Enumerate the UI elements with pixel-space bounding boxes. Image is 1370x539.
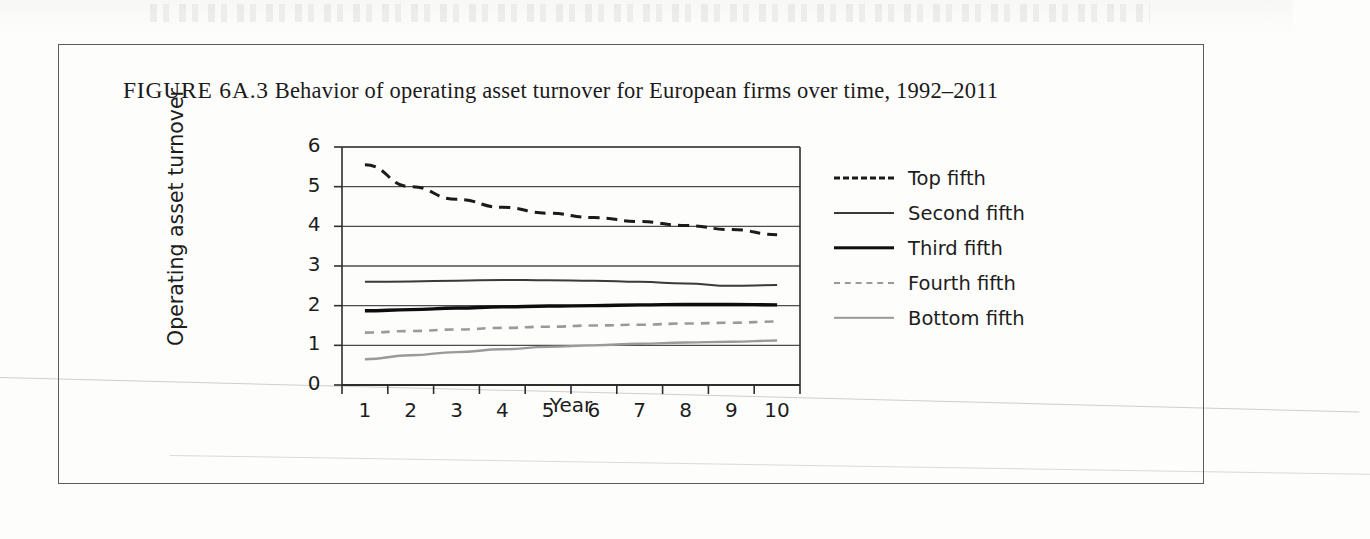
data-series-layer [365, 165, 777, 359]
series-line-top-fifth [365, 165, 777, 235]
series-line-fourth-fifth [365, 322, 777, 333]
y-tick-label: 1 [300, 331, 328, 355]
page-scan-bleed-top [0, 0, 1293, 34]
y-tick-label: 2 [300, 292, 328, 316]
x-tick-label: 4 [482, 398, 522, 422]
legend-swatch-fourth-fifth [834, 277, 894, 289]
legend-label-second-fifth: Second fifth [908, 202, 1025, 225]
legend-swatch-third-fifth [834, 242, 894, 254]
x-tick-label: 3 [437, 398, 477, 422]
x-tick-label: 7 [620, 398, 660, 422]
legend-swatch-second-fifth [834, 207, 894, 219]
axis-ticks [334, 147, 800, 394]
y-tick-label: 0 [300, 371, 328, 395]
legend-item-third-fifth[interactable]: Third fifth [834, 237, 1025, 259]
x-tick-label: 5 [528, 398, 568, 422]
y-tick-label: 3 [300, 252, 328, 276]
y-tick-label: 5 [300, 173, 328, 197]
legend-item-second-fifth[interactable]: Second fifth [834, 202, 1025, 224]
x-tick-label: 8 [666, 398, 706, 422]
page-scan-bleed-text [150, 4, 1150, 22]
legend-label-third-fifth: Third fifth [908, 237, 1003, 260]
y-tick-label: 4 [300, 212, 328, 236]
legend-swatch-bottom-fifth [834, 312, 894, 324]
legend-swatch-top-fifth [834, 172, 894, 184]
chart-area: Operating asset turnover Year 0123456 12… [59, 45, 1205, 485]
x-tick-label: 1 [345, 398, 385, 422]
legend-item-bottom-fifth[interactable]: Bottom fifth [834, 307, 1025, 329]
legend-item-fourth-fifth[interactable]: Fourth fifth [834, 272, 1025, 294]
legend-item-top-fifth[interactable]: Top fifth [834, 167, 1025, 189]
x-tick-label: 6 [574, 398, 614, 422]
gridlines [342, 147, 800, 385]
series-line-second-fifth [365, 280, 777, 286]
chart-legend: Top fifth Second fifth Third fifth Fourt… [834, 167, 1025, 329]
series-line-bottom-fifth [365, 341, 777, 360]
figure-container: FIGURE 6A.3 Behavior of operating asset … [58, 44, 1204, 484]
legend-label-top-fifth: Top fifth [908, 167, 986, 190]
x-tick-label: 2 [391, 398, 431, 422]
x-tick-label: 10 [757, 398, 797, 422]
x-tick-label: 9 [711, 398, 751, 422]
legend-label-bottom-fifth: Bottom fifth [908, 307, 1025, 330]
y-tick-label: 6 [300, 133, 328, 157]
legend-label-fourth-fifth: Fourth fifth [908, 272, 1016, 295]
